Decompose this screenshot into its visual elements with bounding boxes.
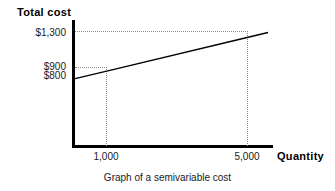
y-tick-label-800: $800 — [8, 70, 66, 81]
guide-line-vertical-5000 — [247, 31, 248, 146]
y-axis-line — [72, 20, 75, 148]
x-axis-line — [72, 145, 273, 148]
figure-caption: Graph of a semivariable cost — [0, 172, 335, 183]
guide-line-horizontal-1300 — [75, 31, 248, 32]
semivariable-cost-chart: Total cost $1,300 $900 $800 1,000 5,000 … — [0, 0, 335, 191]
semivariable-cost-line — [73, 33, 268, 80]
y-tick-label-1300: $1,300 — [8, 27, 66, 38]
x-axis-title: Quantity — [277, 151, 324, 162]
x-tick-label-5000: 5,000 — [227, 151, 267, 162]
guide-line-horizontal-900 — [75, 67, 107, 68]
y-axis-title: Total cost — [17, 7, 71, 18]
x-tick-label-1000: 1,000 — [86, 151, 126, 162]
guide-line-vertical-1000 — [106, 67, 107, 146]
